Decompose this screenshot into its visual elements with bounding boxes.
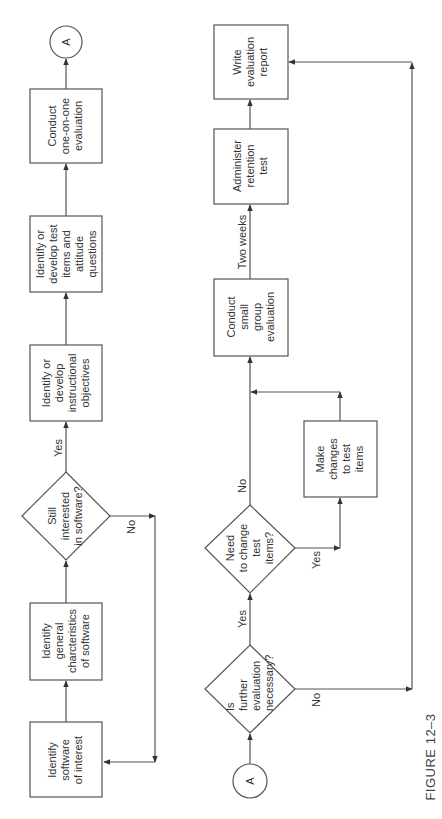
text-identify-test-items: Identify or develop test items and attit…: [34, 224, 98, 283]
line: objectives: [79, 358, 91, 407]
label-still-interested-yes: Yes: [52, 439, 64, 457]
edge-label: Yes: [52, 439, 64, 457]
line: test: [257, 157, 269, 175]
line: general: [53, 623, 65, 660]
line: develop: [53, 364, 65, 403]
line: evaluation: [250, 661, 262, 711]
line: one-on-one: [59, 98, 71, 154]
line: attitude: [73, 236, 85, 272]
line: items and: [60, 230, 72, 278]
line: to change: [237, 524, 249, 572]
line: of software: [79, 614, 91, 668]
line: in software?: [72, 486, 84, 545]
edge-label: No: [310, 693, 322, 707]
line: Identify or: [40, 359, 52, 408]
flowchart: Identify software of interest Identify g…: [0, 0, 442, 819]
line: small: [238, 304, 250, 330]
edge-label: No: [125, 520, 137, 534]
line: to test: [340, 444, 352, 474]
line: Make: [314, 446, 326, 473]
line: Identify: [46, 742, 58, 778]
label-still-interested-no: No: [125, 520, 137, 534]
line: Administer: [231, 140, 243, 192]
line: necessary?: [263, 655, 275, 711]
line: evaluation: [264, 292, 276, 342]
text-identify-software: Identify software of interest: [46, 736, 84, 784]
label-further-no: No: [310, 693, 322, 707]
label-need-change-yes: Yes: [310, 551, 322, 569]
line: Still: [46, 507, 58, 525]
line: Need: [224, 535, 236, 561]
line: Identify: [40, 623, 52, 659]
line: charcteristics: [66, 608, 78, 673]
label-need-change-no: No: [236, 479, 248, 493]
caption-text: FIGURE 12–3: [423, 713, 438, 800]
line: interested: [59, 492, 71, 540]
line: further: [237, 679, 249, 711]
label-further-yes: Yes: [236, 610, 248, 628]
line: develop test: [47, 224, 59, 283]
line: evaluation: [72, 101, 84, 151]
edge-label: Yes: [236, 610, 248, 628]
connector-label: A: [244, 777, 256, 785]
line: group: [251, 303, 263, 331]
line: retention: [244, 145, 256, 188]
line: instructional: [66, 354, 78, 413]
line: Conduct: [225, 297, 237, 338]
line: of interest: [72, 736, 84, 784]
line: Is: [224, 702, 236, 711]
line: changes: [327, 438, 339, 480]
connector-label: A: [60, 38, 72, 46]
line: test: [250, 539, 262, 557]
line: items: [353, 445, 365, 472]
line: report: [257, 48, 269, 77]
text-identify-objectives: Identify or develop instructional object…: [40, 354, 91, 413]
line: questions: [86, 230, 98, 278]
edge-label: No: [236, 479, 248, 493]
line: Identify or: [34, 230, 46, 279]
line: items?: [263, 532, 275, 564]
line: Write: [231, 49, 243, 74]
edge-label: Yes: [310, 551, 322, 569]
text-connector-a-bottom: A: [244, 777, 256, 785]
line: software: [59, 739, 71, 781]
label-two-weeks: Two weeks: [236, 214, 248, 269]
text-conduct-one-on-one: Conduct one-on-one evaluation: [46, 98, 84, 154]
text-connector-a-top: A: [60, 38, 72, 46]
figure-caption: FIGURE 12–3: [423, 713, 438, 800]
line: evaluation: [244, 37, 256, 87]
edge-label: Two weeks: [236, 214, 248, 269]
line: Conduct: [46, 106, 58, 147]
